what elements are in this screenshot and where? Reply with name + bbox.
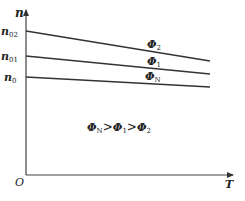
curve-phi-2 xyxy=(26,31,210,61)
label-phi-2: Φ2 xyxy=(147,38,161,52)
flux-inequality: ΦN>Φ1>Φ2 xyxy=(87,120,151,135)
speed-torque-diagram: n O T n02 n01 n0 Φ2 Φ1 ΦN ΦN>Φ1>Φ2 xyxy=(0,0,245,201)
curve-phi-N xyxy=(26,77,210,87)
label-phi-N: ΦN xyxy=(145,70,161,84)
tick-n02: n02 xyxy=(1,25,18,39)
curve-phi-1 xyxy=(26,56,210,74)
tick-n01: n01 xyxy=(1,50,18,64)
origin-label: O xyxy=(15,176,24,189)
label-phi-1: Φ1 xyxy=(147,55,161,69)
tick-n0: n0 xyxy=(4,71,16,85)
x-axis-label: T xyxy=(225,178,234,191)
y-axis-label: n xyxy=(15,6,24,20)
